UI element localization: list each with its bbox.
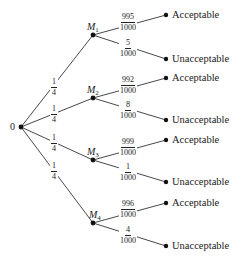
prob-m2: 14 [50, 105, 58, 124]
prob-m4-acceptable: 9961000 [119, 200, 137, 219]
outcome-m4-acceptable: Acceptable [172, 198, 219, 209]
node-label-m4: M4 [89, 210, 101, 222]
outcome-m4-unacceptable: Unacceptable [172, 241, 229, 252]
outcome-m1-unacceptable: Unacceptable [172, 54, 229, 65]
leaf-m1-acceptable [164, 13, 168, 17]
prob-m1-unacceptable: 51000 [119, 39, 137, 58]
prob-m3: 14 [50, 134, 58, 153]
outcome-m3-acceptable: Acceptable [172, 135, 219, 146]
node-label-m2: M2 [87, 85, 99, 97]
leaf-m4-acceptable [164, 201, 168, 205]
prob-m1: 14 [50, 78, 58, 97]
outcome-m3-unacceptable: Unacceptable [172, 177, 229, 188]
leaf-m3-unacceptable [164, 180, 168, 184]
leaf-m1-unacceptable [164, 57, 168, 61]
outcome-m2-unacceptable: Unacceptable [172, 115, 229, 126]
tree-edges [0, 0, 234, 260]
leaf-m3-acceptable [164, 138, 168, 142]
leaf-m4-unacceptable [164, 244, 168, 248]
prob-m1-acceptable: 9951000 [119, 13, 137, 32]
node-label-m3: M3 [87, 147, 99, 159]
outcome-m1-acceptable: Acceptable [172, 10, 219, 21]
prob-m4-unacceptable: 41000 [119, 226, 137, 245]
prob-m3-unacceptable: 11000 [119, 163, 137, 182]
node-label-m1: M1 [87, 22, 99, 34]
root-node [19, 125, 24, 130]
prob-m4: 14 [50, 162, 58, 181]
outcome-m2-acceptable: Acceptable [172, 73, 219, 84]
root-label: 0 [10, 121, 15, 132]
prob-m2-acceptable: 9921000 [119, 76, 137, 95]
prob-m3-acceptable: 9991000 [119, 138, 137, 157]
leaf-m2-acceptable [164, 76, 168, 80]
leaf-m2-unacceptable [164, 118, 168, 122]
prob-m2-unacceptable: 81000 [119, 101, 137, 120]
